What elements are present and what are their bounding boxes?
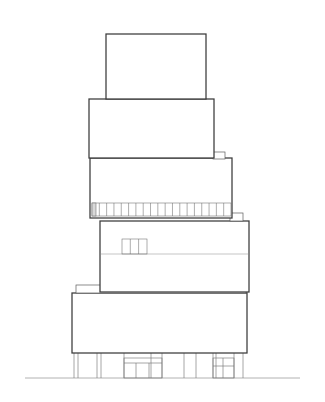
tier-base-volume bbox=[72, 293, 247, 353]
colonnade bbox=[74, 353, 243, 378]
tier-fourth-volume bbox=[89, 99, 214, 158]
colonnade-infill-panel bbox=[124, 358, 162, 378]
notch-upper-right bbox=[213, 152, 225, 159]
tier-top-volume bbox=[106, 34, 206, 99]
tier-middle-volume bbox=[90, 152, 232, 218]
tier-second-volume bbox=[100, 213, 249, 292]
elevation-drawing-canvas bbox=[0, 0, 325, 402]
building-elevation-svg bbox=[0, 0, 325, 402]
